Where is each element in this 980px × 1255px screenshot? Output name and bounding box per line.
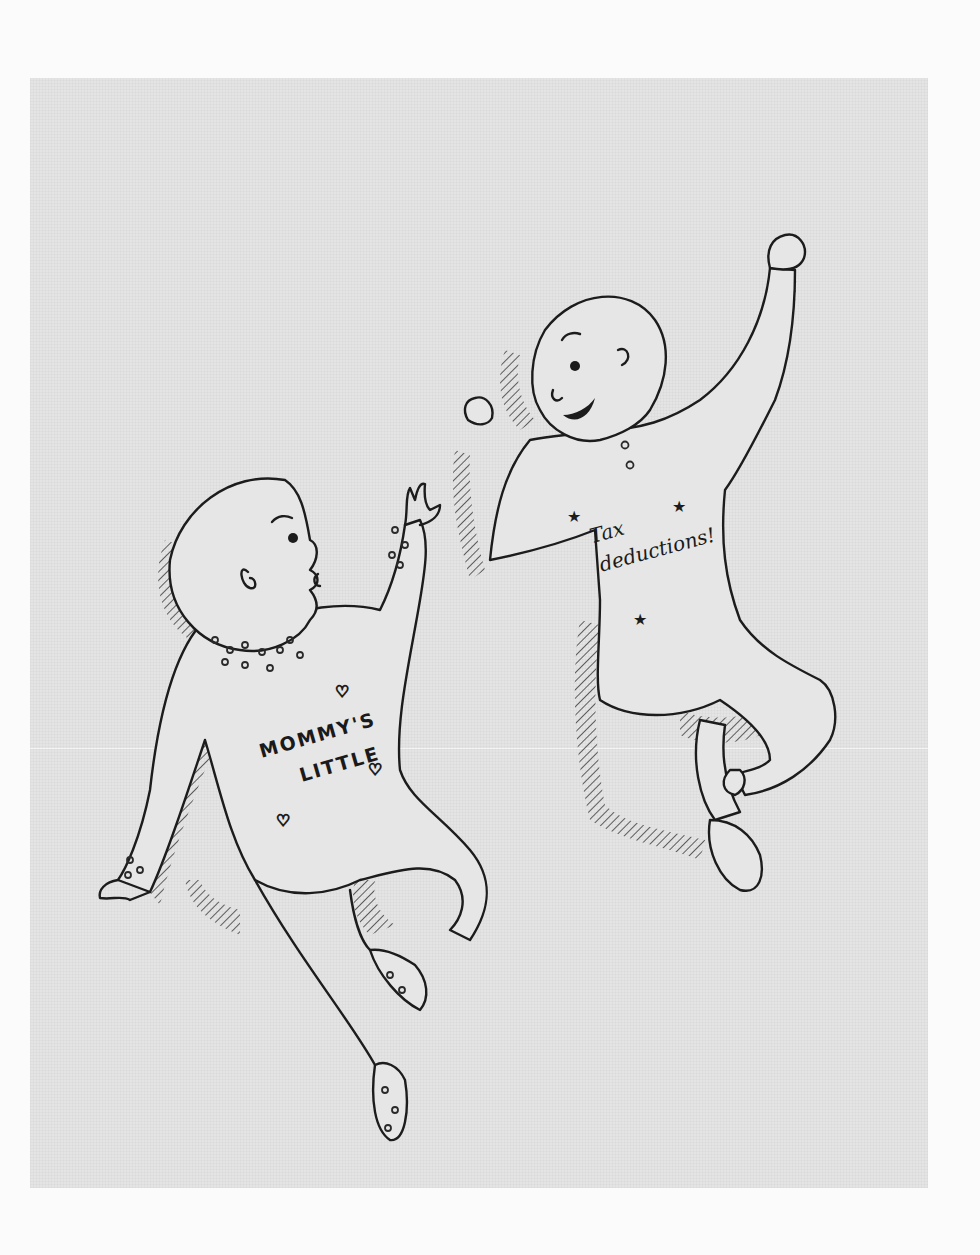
star-icon: ★ (633, 610, 647, 629)
baby-illustration: ♡ ♡ ♡ ★ ★ ★ (0, 0, 980, 1255)
heart-icon: ♡ (276, 811, 290, 830)
heart-icon: ♡ (335, 682, 349, 701)
left-baby: ♡ ♡ ♡ (100, 478, 487, 1140)
star-icon: ★ (567, 507, 581, 526)
